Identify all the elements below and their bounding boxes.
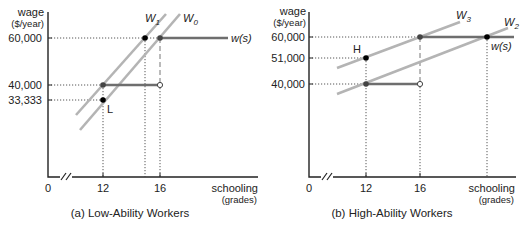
point-16-60000 — [417, 34, 423, 40]
y-tick-40000: 40,000 — [8, 79, 42, 91]
caption: (b) High-Ability Workers — [331, 207, 452, 219]
x-tick-0: 0 — [306, 182, 312, 194]
x-tick-0: 0 — [45, 182, 51, 194]
y-axis-unit: ($/year) — [11, 18, 44, 29]
point-16-60000 — [157, 35, 163, 41]
axis-break-icon — [60, 172, 72, 180]
caption: (a) Low-Ability Workers — [71, 207, 190, 219]
x-tick-16: 16 — [414, 182, 426, 194]
label-w0: W0 — [183, 12, 198, 27]
y-tick-60000: 60,000 — [271, 31, 305, 43]
x-axis-unit: (grades) — [479, 194, 514, 205]
curve-w0 — [80, 14, 180, 130]
point-H — [363, 55, 369, 61]
label-H: H — [353, 43, 361, 55]
point-12-40000 — [363, 81, 369, 87]
x-tick-16: 16 — [154, 182, 166, 194]
x-axis-unit: (grades) — [222, 194, 257, 205]
y-axis-unit: ($/year) — [273, 17, 306, 28]
open-point-16-40000 — [417, 81, 422, 86]
y-tick-60000: 60,000 — [8, 32, 42, 44]
y-tick-33333: 33,333 — [8, 94, 42, 106]
label-L: L — [107, 103, 113, 115]
panel-low-ability: wage ($/year) 60,000 40,000 33,333 0 12 … — [8, 6, 258, 219]
curve-w1 — [76, 14, 166, 115]
label-wage-fn: w(s) — [491, 40, 512, 52]
figure: wage ($/year) 60,000 40,000 33,333 0 12 … — [0, 0, 523, 228]
point-w2-60000 — [484, 34, 490, 40]
x-tick-12: 12 — [360, 182, 372, 194]
y-tick-51000: 51,000 — [271, 52, 305, 64]
label-w1: W1 — [145, 12, 160, 27]
point-w1-60000 — [142, 35, 148, 41]
y-axis-label: wage — [279, 5, 306, 17]
panel-high-ability: wage ($/year) 60,000 51,000 40,000 0 12 … — [271, 5, 519, 219]
axis-break-icon — [321, 172, 333, 180]
point-12-40000 — [100, 82, 106, 88]
point-L — [100, 97, 106, 103]
y-tick-40000: 40,000 — [271, 78, 305, 90]
x-axis-label: schooling — [469, 182, 515, 194]
x-tick-12: 12 — [97, 182, 109, 194]
x-axis-label: schooling — [212, 182, 258, 194]
open-point-16-40000 — [157, 82, 162, 87]
y-axis-label: wage — [17, 6, 44, 18]
label-wage-fn: w(s) — [231, 32, 252, 44]
